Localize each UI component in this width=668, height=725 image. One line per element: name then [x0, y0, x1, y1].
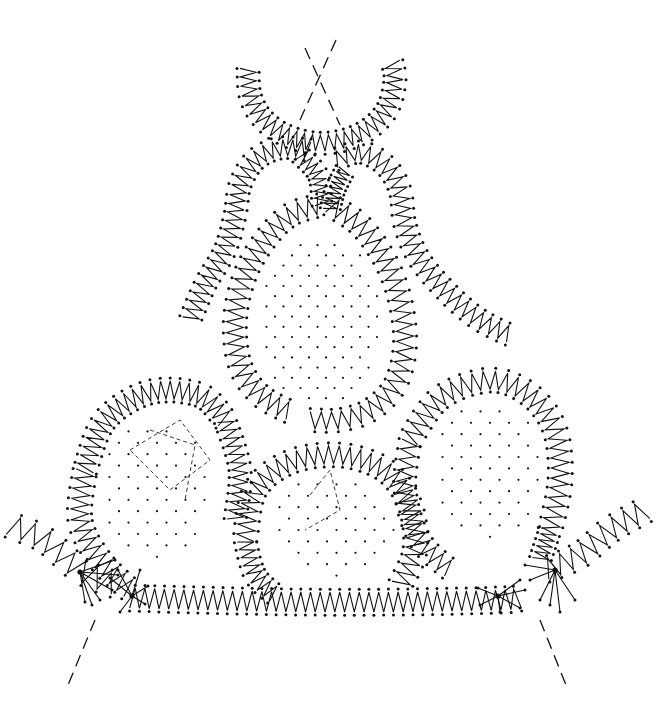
zigzag-band-left-flower-lower [66, 467, 136, 600]
dot-field-right-flower-ground [441, 410, 538, 538]
dashed-line-bottom-left-guide [68, 620, 95, 685]
zigzag-band-base-border [128, 584, 523, 617]
fan-right-fan-outer [524, 564, 577, 614]
diagram-svg [0, 0, 668, 725]
zigzag-band-middle-flower-left [233, 540, 280, 605]
zigzag-band-right-flower-lower [528, 525, 561, 562]
zigzag-bands [4, 58, 653, 617]
dot-field-middle-flower-ground [278, 483, 394, 576]
zigzag-band-top-arc [236, 58, 408, 156]
fine-dash-left-flower-center-1 [130, 420, 210, 490]
lace-pricking-diagram [0, 0, 668, 725]
zigzag-band-right-lobe-outer [333, 140, 511, 347]
dot-field-left-flower-ground [108, 430, 205, 558]
zigzag-band-central-leaf-left [222, 193, 319, 424]
zigzag-band-left-flower-right [213, 419, 253, 520]
zigzag-band-right-tail [545, 500, 653, 583]
zigzag-band-left-flower [74, 376, 234, 475]
ground-dot-fields [108, 244, 538, 577]
dashed-guide-lines [68, 40, 568, 690]
fan-left-fan-outer [77, 559, 119, 607]
fine-dash-middle-flower-center [305, 470, 340, 530]
dashed-line-bottom-right-guide [540, 620, 568, 690]
zigzag-band-right-flower-left [392, 437, 454, 579]
zigzag-band-right-flower [401, 367, 574, 530]
dashed-line-top-cross-1 [300, 40, 336, 120]
dot-field-central-ground [265, 244, 378, 399]
dashed-line-top-cross-2 [305, 48, 340, 125]
